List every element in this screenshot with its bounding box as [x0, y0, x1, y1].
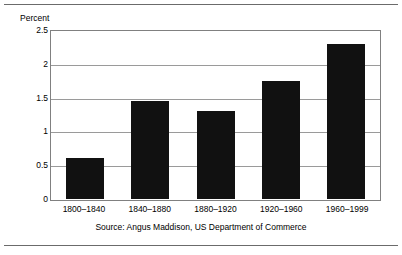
plot-area: [50, 30, 381, 201]
bar-slot: [183, 32, 248, 199]
bar: [131, 101, 169, 199]
y-axis-title: Percent: [20, 13, 49, 23]
bottom-divider-rule: [4, 245, 398, 246]
x-axis-tick-label: 1960–1999: [314, 204, 380, 214]
chart-figure: Percent 1800–18401840–18801880–19201920–…: [0, 0, 402, 255]
bar: [197, 111, 235, 199]
y-axis-tick-label: 0.5: [4, 161, 48, 170]
y-axis-tick-label: 1: [4, 127, 48, 136]
x-axis-tick-label: 1920–1960: [248, 204, 314, 214]
bar-slot: [52, 32, 117, 199]
y-axis-tick-label: 2.5: [4, 26, 48, 35]
y-axis-tick-label: 1.5: [4, 94, 48, 103]
top-divider-rule: [4, 4, 398, 5]
bar: [327, 44, 365, 199]
bar-slot: [117, 32, 182, 199]
y-axis-tick-label: 2: [4, 60, 48, 69]
x-axis-tick-label: 1800–1840: [51, 204, 117, 214]
x-axis-tick-label: 1840–1880: [117, 204, 183, 214]
bar-series: [52, 32, 379, 199]
bar: [262, 81, 300, 199]
bar-slot: [314, 32, 379, 199]
y-axis-tick-label: 0: [4, 195, 48, 204]
x-axis-tick-labels: 1800–18401840–18801880–19201920–19601960…: [51, 204, 380, 214]
source-note: Source: Angus Maddison, US Department of…: [0, 222, 402, 232]
bar-slot: [248, 32, 313, 199]
x-axis-tick-label: 1880–1920: [183, 204, 249, 214]
bar: [66, 158, 104, 199]
